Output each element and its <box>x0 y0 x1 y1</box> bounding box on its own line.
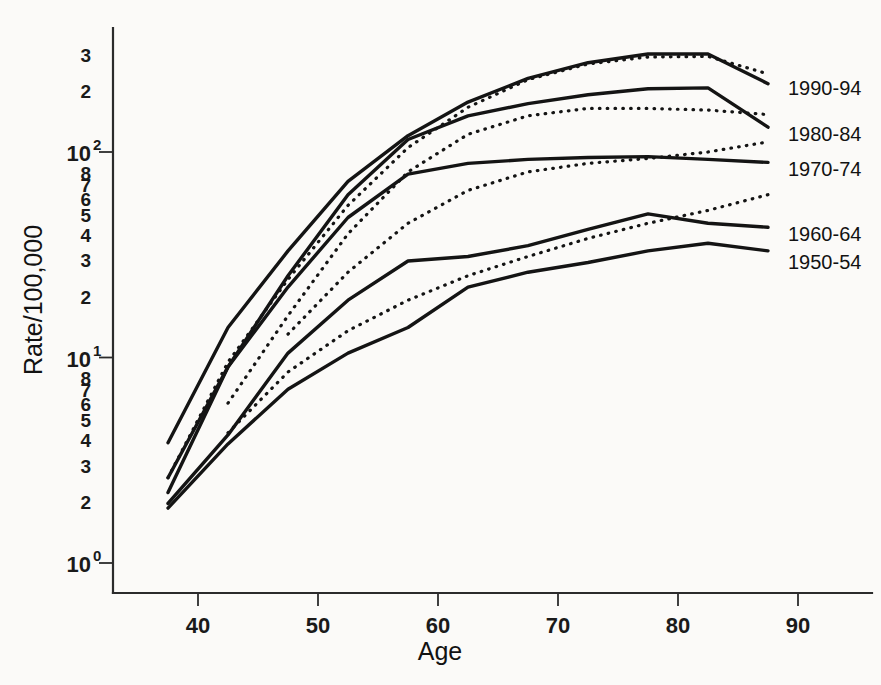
y-tick-label-minor: 2 <box>80 492 91 513</box>
series-label-1980-84: 1980-84 <box>788 123 861 145</box>
x-axis-title: Age <box>418 637 462 665</box>
y-axis-title: Rate/100,000 <box>19 225 47 375</box>
x-tick-label: 50 <box>306 613 330 638</box>
y-tick-exponent: 0 <box>93 547 101 564</box>
y-tick-label-minor: 4 <box>80 225 91 246</box>
y-tick-label-minor: 3 <box>80 45 91 66</box>
series-label-1990-94: 1990-94 <box>788 77 861 99</box>
y-tick-exponent: 2 <box>93 136 101 153</box>
rate-by-age-log-chart: 1001011022345678234567823 405060708090 1… <box>0 0 881 685</box>
y-tick-exponent: 1 <box>93 342 101 359</box>
y-tick-label-minor: 3 <box>80 456 91 477</box>
series-label-1950-54: 1950-54 <box>788 251 861 273</box>
series-label-1960-64: 1960-64 <box>788 223 861 245</box>
y-tick-label-minor: 8 <box>80 163 91 184</box>
x-tick-label: 70 <box>546 613 570 638</box>
y-tick-label-minor: 3 <box>80 250 91 271</box>
y-tick-label-major: 10 <box>67 552 91 577</box>
series-label-1970-74: 1970-74 <box>788 158 861 180</box>
y-tick-label-minor: 2 <box>80 81 91 102</box>
y-tick-label-minor: 2 <box>80 287 91 308</box>
chart-container: 1001011022345678234567823 405060708090 1… <box>0 0 881 685</box>
x-tick-label: 60 <box>426 613 450 638</box>
x-tick-label: 40 <box>186 613 210 638</box>
x-tick-label: 90 <box>786 613 810 638</box>
x-tick-label: 80 <box>666 613 690 638</box>
plot-background <box>0 0 881 685</box>
y-tick-label-minor: 8 <box>80 368 91 389</box>
y-tick-label-minor: 4 <box>80 430 91 451</box>
